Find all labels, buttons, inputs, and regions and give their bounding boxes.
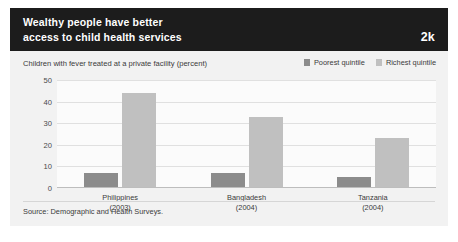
y-axis-tick-label: 50 <box>44 76 52 85</box>
bar-group: Philippines (2003) <box>84 80 156 188</box>
legend-swatch-poorest <box>304 59 311 66</box>
x-axis-category-label: Bangladesh (2004) <box>227 193 266 212</box>
bar-poorest[interactable] <box>84 173 118 188</box>
legend-label-poorest: Poorest quintile <box>314 58 365 67</box>
axis-baseline <box>57 187 436 188</box>
chart-legend: Poorest quintile Richest quintile <box>304 58 436 67</box>
chart-subtitle: Children with fever treated at a private… <box>23 59 207 68</box>
y-axis-tick-label: 30 <box>44 119 52 128</box>
plot-area: 50403020100 Philippines (2003)Bangladesh… <box>57 80 436 188</box>
bar-group: Tanzania (2004) <box>337 80 409 188</box>
legend-item-poorest: Poorest quintile <box>304 58 365 67</box>
bar-richest[interactable] <box>375 138 409 188</box>
bar-richest[interactable] <box>122 93 156 188</box>
legend-item-richest: Richest quintile <box>376 58 436 67</box>
x-axis-category-label: Tanzania (2004) <box>358 193 388 212</box>
bar-richest[interactable] <box>249 117 283 188</box>
legend-swatch-richest <box>376 59 383 66</box>
y-axis-tick-label: 0 <box>48 184 52 193</box>
y-axis-tick-label: 40 <box>44 97 52 106</box>
y-axis-tick-label: 20 <box>44 140 52 149</box>
bar-poorest[interactable] <box>211 173 245 188</box>
y-axis-tick-label: 10 <box>44 162 52 171</box>
page-title: Wealthy people have better access to chi… <box>23 15 353 44</box>
legend-label-richest: Richest quintile <box>386 58 436 67</box>
source-note: Source: Demographic and Health Surveys. <box>23 207 163 216</box>
figure-card: Wealthy people have better access to chi… <box>10 8 448 226</box>
chapter-badge: 2k <box>421 30 435 44</box>
title-bar: Wealthy people have better access to chi… <box>10 8 448 51</box>
chart-body: Children with fever treated at a private… <box>10 51 448 226</box>
bar-group: Bangladesh (2004) <box>211 80 283 188</box>
footer-divider <box>23 201 435 202</box>
